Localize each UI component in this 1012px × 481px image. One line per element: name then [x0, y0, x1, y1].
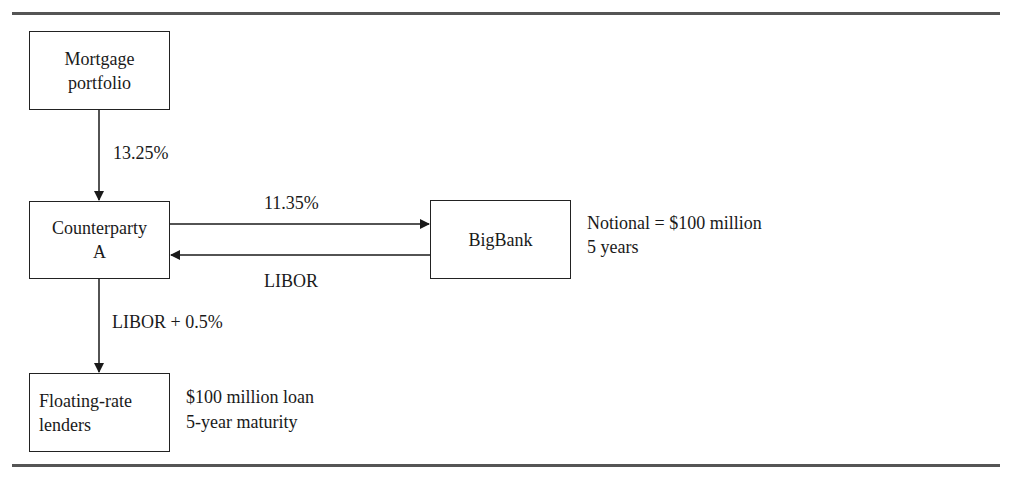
- note-line: $100 million loan: [186, 385, 314, 410]
- node-counterparty-a: Counterparty A: [29, 201, 170, 279]
- edge-label-11-35: 11.35%: [264, 192, 319, 214]
- node-label: Counterparty: [52, 216, 147, 240]
- node-label: portfolio: [68, 71, 131, 95]
- node-label: BigBank: [468, 228, 532, 252]
- note-line: Notional = $100 million: [587, 211, 762, 235]
- edge-label-libor-plus: LIBOR + 0.5%: [112, 311, 223, 333]
- note-line: 5 years: [587, 235, 762, 259]
- node-mortgage-portfolio: Mortgage portfolio: [29, 31, 170, 110]
- swap-terms-note: Notional = $100 million 5 years: [587, 211, 762, 259]
- node-label: Mortgage: [65, 47, 135, 71]
- edge-label-libor: LIBOR: [264, 270, 318, 292]
- node-label: A: [93, 240, 106, 264]
- node-label: lenders: [39, 413, 91, 437]
- note-line: 5-year maturity: [186, 410, 314, 435]
- node-floating-rate-lenders: Floating-rate lenders: [29, 373, 170, 452]
- edge-label-13-25: 13.25%: [113, 142, 169, 164]
- node-label: Floating-rate: [39, 389, 132, 413]
- node-bigbank: BigBank: [430, 200, 571, 279]
- loan-terms-note: $100 million loan 5-year maturity: [186, 385, 314, 435]
